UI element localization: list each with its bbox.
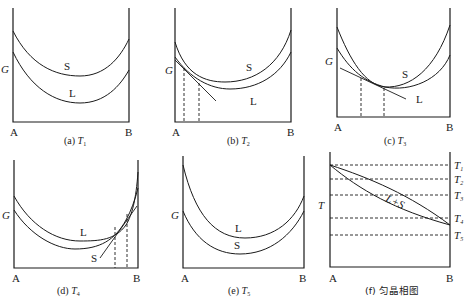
panel-a-lower-label: L [69,87,76,99]
panel-d-upper-label: L [80,226,87,238]
panel-c-b-label: B [446,121,453,133]
panel-e-b-label: B [299,272,306,284]
panel-d-caption: (d) T4 [57,285,80,297]
panel-a: G S L A B (a) T1 [1,8,132,147]
panel-c-upper-label: S [402,68,408,80]
panel-d-g-label: G [2,209,10,221]
panel-f-t4-label: T4 [454,212,463,225]
panel-a-s-curve [13,31,129,76]
panel-f-t-axis-label: T [318,199,325,211]
panel-e-g-label: G [171,209,179,221]
panel-e-lower-label: S [234,239,240,251]
panel-d-lower-label: S [91,252,97,264]
panel-f-b-label: B [446,272,453,284]
panel-e-upper-label: L [235,222,242,234]
panel-e-l-curve [183,165,304,238]
panel-f-t3-label: T3 [454,189,463,202]
panel-e: G L S A B (e) T5 [171,156,306,297]
panel-f: T L+S T1 T2 T3 T4 T5 A B (f) 匀晶相图 [318,152,463,296]
panel-f-axes [330,152,450,267]
panel-b-axes [175,8,291,122]
panel-b-l-curve [175,52,291,89]
figure-canvas: G S L A B (a) T1 G S L A B (b) T2 G S L … [0,0,465,302]
panel-f-a-label: A [329,272,337,284]
panel-c-s-curve [337,25,450,87]
panel-a-axes [13,8,129,122]
panel-e-a-label: A [181,272,189,284]
panel-d-s-curve [14,188,138,249]
panel-d: G L S A B (d) T4 [2,160,140,297]
panel-f-t2-label: T2 [454,173,463,186]
panel-c-a-label: A [334,121,342,133]
panel-d-b-label: B [133,272,140,284]
panel-b-b-label: B [287,126,294,138]
panel-e-s-curve [183,211,304,254]
panel-b-caption: (b) T2 [227,135,250,147]
panel-d-a-label: A [12,272,20,284]
panel-f-t1-label: T1 [454,159,463,172]
panel-b-upper-label: S [246,61,252,73]
panel-f-region-label: L+S [383,192,407,212]
panel-e-caption: (e) T5 [228,285,250,297]
panel-a-upper-label: S [64,60,70,72]
panel-b-lower-label: L [250,95,257,107]
panel-c-l-curve [337,48,450,88]
panel-c-lower-label: L [416,93,423,105]
panel-a-caption: (a) T1 [64,135,86,147]
panel-a-a-label: A [10,126,18,138]
panel-c: G S L A B (c) T3 [325,8,453,147]
panel-a-b-label: B [125,126,132,138]
panel-a-g-label: G [1,63,9,75]
panel-c-common-tangent [340,68,406,99]
panel-b-a-label: A [172,126,180,138]
panel-c-g-label: G [325,55,333,67]
panel-c-caption: (c) T3 [384,135,406,147]
panel-f-caption: (f) 匀晶相图 [365,285,419,296]
panel-f-t5-label: T5 [454,229,463,242]
panel-d-axes [14,160,138,268]
panel-b-g-label: G [165,64,173,76]
panel-b: G S L A B (b) T2 [165,8,294,147]
panel-d-common-tangent [100,206,137,258]
